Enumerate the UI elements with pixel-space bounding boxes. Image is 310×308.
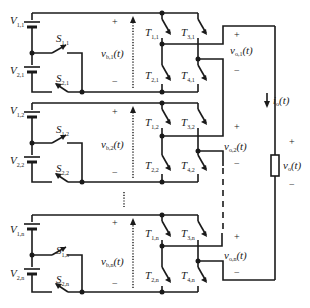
label-vo2: vo,2(t) xyxy=(224,140,247,153)
label-v22: V2,2 xyxy=(10,154,24,168)
battery-icon xyxy=(24,269,40,274)
sign-label: − xyxy=(289,179,295,190)
sign-label: − xyxy=(234,65,240,76)
current-arrow-icon xyxy=(264,93,270,108)
minus-sign: − xyxy=(112,76,118,87)
label-v21: V2,1 xyxy=(10,64,24,78)
label-vb2: vb,2(t) xyxy=(101,138,124,151)
label-t22: T2,2 xyxy=(145,159,159,173)
sign-label: + xyxy=(112,217,118,228)
label-t2n: T2,n xyxy=(145,269,159,283)
battery-icon xyxy=(24,67,40,72)
sign-label: + xyxy=(234,121,240,132)
battery-icon xyxy=(24,22,40,27)
label-t12: T1,2 xyxy=(145,116,159,130)
label-t3n: T3,n xyxy=(181,227,195,241)
label-io: io(t) xyxy=(273,94,290,107)
label-t42: T4,2 xyxy=(181,159,195,173)
label-t32: T3,2 xyxy=(181,116,195,130)
resistor-icon xyxy=(271,155,279,176)
label-t41: T4,1 xyxy=(181,69,195,83)
label-vo1: vo,1(t) xyxy=(230,44,253,57)
switch-s1-icon xyxy=(52,45,66,53)
label-v11: V1,1 xyxy=(10,14,24,28)
sign-label: + xyxy=(289,136,295,147)
label-t11: T1,1 xyxy=(145,26,159,40)
battery-icon xyxy=(24,224,40,229)
battery-icon xyxy=(24,157,40,162)
label-v1n: V1,n xyxy=(10,223,24,237)
sign-label: − xyxy=(112,167,118,178)
label-vb1: vb,1(t) xyxy=(101,47,124,60)
battery-icon xyxy=(24,112,40,117)
label-s2n: S2,n xyxy=(56,273,69,287)
label-s11: S1,1 xyxy=(56,32,69,46)
sign-label: + xyxy=(234,29,240,40)
sign-label: − xyxy=(112,278,118,289)
plus-sign: + xyxy=(112,16,118,27)
load xyxy=(264,26,279,280)
label-v2n: V2,n xyxy=(10,267,24,281)
label-t4n: T4,n xyxy=(181,269,195,283)
label-t31: T3,1 xyxy=(181,26,195,40)
label-s21: S2,1 xyxy=(56,72,69,86)
label-vbn: vb,n(t) xyxy=(101,255,124,268)
label-t1n: T1,n xyxy=(145,227,159,241)
cascaded-inverter-diagram: V1,1 V2,1 S1,1 S2,1 + − vb,1(t) T1,1 T2,… xyxy=(0,0,310,308)
label-von: vo,n(t) xyxy=(224,249,247,262)
label-s12: S1,2 xyxy=(56,123,69,137)
sign-label: − xyxy=(234,158,240,169)
label-vo: vo(t) xyxy=(283,159,302,172)
sign-label: + xyxy=(112,106,118,117)
label-v12: V1,2 xyxy=(10,104,24,118)
label-t21: T2,1 xyxy=(145,69,159,83)
sign-label: − xyxy=(234,267,240,278)
sign-label: + xyxy=(234,231,240,242)
label-s22: S2,2 xyxy=(56,162,69,176)
